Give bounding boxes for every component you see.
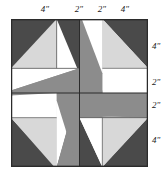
right-dimension-label-1: 4" [152, 42, 160, 51]
bl-wedge-white-band [11, 93, 57, 118]
top-dimension-label-3: 2" [98, 5, 106, 14]
top-dimension-label-1: 4" [41, 5, 49, 14]
right-dimension-label-2: 2" [152, 78, 160, 87]
top-dimension-label-2: 2" [75, 5, 83, 14]
right-dimension-label-3: 2" [152, 101, 160, 110]
quilt-block-graphic [11, 19, 148, 167]
quilt-block-diagram: 4" 2" 2" 4" 4" 2" 2" 4" [0, 0, 167, 180]
tr-wedge-white-band [102, 68, 148, 90]
pinwheel-arm-right-b [80, 93, 149, 118]
right-dimension-label-4: 4" [152, 136, 160, 145]
top-dimension-label-4: 4" [121, 5, 129, 14]
